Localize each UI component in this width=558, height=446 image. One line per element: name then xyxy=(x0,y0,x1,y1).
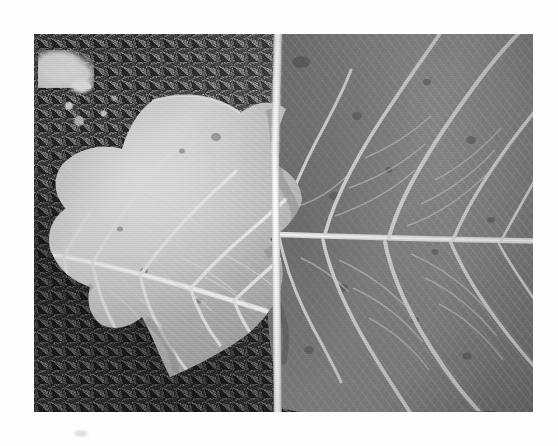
page-caption xyxy=(0,0,1,1)
photo-title: Two dried leaves on gravel ground xyxy=(0,0,1,1)
page-canvas: Two dried leaves on gravel ground Black-… xyxy=(0,0,558,446)
page-smudge-mark xyxy=(73,430,89,437)
subject-petiole-label: Leaf stem / petiole xyxy=(0,0,1,1)
subject-left-leaf-label: Left leaf xyxy=(0,0,1,1)
subject-left-leaf-features: pale upper surface, prominent pale midri… xyxy=(0,0,1,1)
photo-description: Black-and-white photograph showing two d… xyxy=(0,0,1,1)
subject-petiole-features: runs from top edge to bottom edge of fra… xyxy=(0,0,1,1)
subject-ground-label: Gravel ground xyxy=(0,0,1,1)
photograph xyxy=(34,34,533,412)
subject-right-leaf-label: Right leaf xyxy=(0,0,1,1)
subject-ground-features: coarse granular asphalt with a bright wh… xyxy=(0,0,1,1)
subject-right-leaf-features: dense reticulate venation, horizontal mi… xyxy=(0,0,1,1)
left-leaf xyxy=(34,89,334,389)
